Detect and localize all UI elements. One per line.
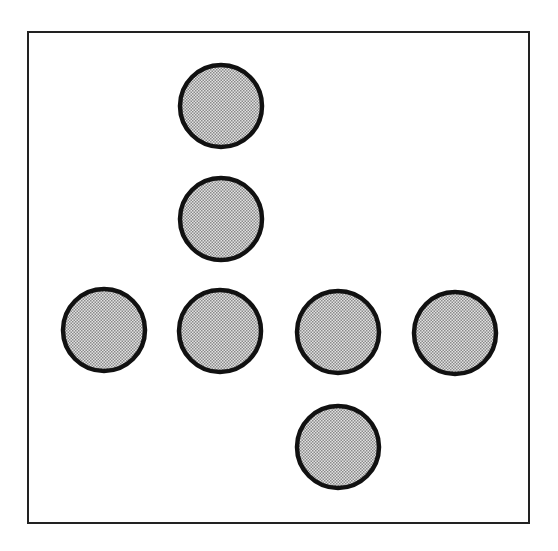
circle-group: [63, 65, 496, 488]
diagram-canvas: [0, 0, 558, 551]
circle-upper-middle: [180, 178, 262, 260]
circle-row-2: [179, 290, 261, 372]
circle-top: [180, 65, 262, 147]
circle-row-1: [63, 289, 145, 371]
circle-row-4: [414, 292, 496, 374]
circle-bottom: [297, 406, 379, 488]
frame-border: [28, 32, 529, 523]
circle-row-3: [297, 291, 379, 373]
